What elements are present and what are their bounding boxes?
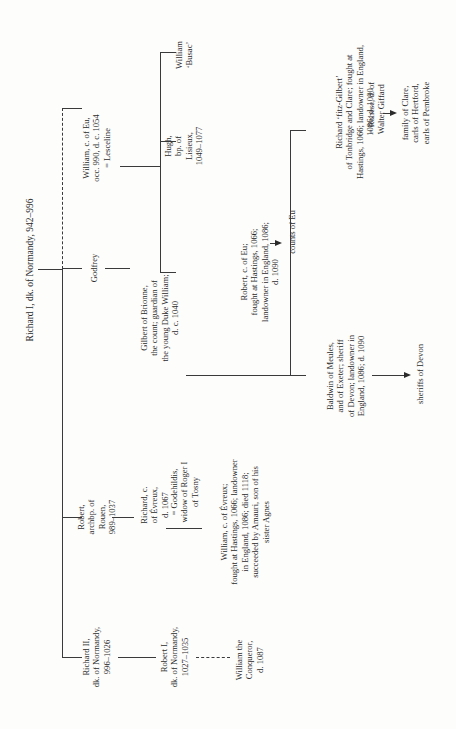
spine-gilbert [290,130,291,376]
edge-gilbert-children [186,375,290,376]
node-counts-eu: counts of Eu [287,210,297,253]
node-william-eu: William, c. of Eu, occ. 990, d. c. 1054 … [81,114,112,181]
edge-robert-i [118,657,156,658]
node-william-conqueror: William the Conqueror, d. 1087 [234,640,265,680]
arrow-devon-icon [404,372,411,378]
family-tree-diagram: Richard I, dk. of Normandy, 942–996 Rich… [0,0,456,729]
arrow-devon-shaft [372,375,408,376]
spine-eu [160,52,161,273]
edge-william-eu [62,108,82,109]
node-robert-eu: Robert, c. of Eu; fought at Hastings, 10… [239,222,281,322]
node-family-clare: family of Clare, carls of Hertford, earl… [400,82,431,145]
arrow-counts-eu-icon [275,240,282,246]
spine-dashed [62,108,63,269]
node-richard-i: Richard I, dk. of Normandy, 942–996 [25,199,35,342]
edge-baldwin [290,375,306,376]
node-robert-i: Robert I, dk. of Normandy, 1027–1035 [159,627,190,688]
node-william-evreux: William, c. of Évreux; fought at Hasting… [219,459,271,584]
spine-solid [62,269,63,658]
node-hugh: Hugh, bp. of Lisieux, 1049–1077 [163,127,205,166]
edge-gilbert [105,268,130,269]
node-william-busac: William ‘Busac’ [174,41,195,69]
edge-william-eu-children [120,166,160,167]
node-sheriffs-devon: sheriffs of Devon [415,344,425,404]
node-gilbert: Gilbert of Brionne, the count; guardian … [139,274,181,361]
node-richard-evreux: Richard, c. of Évreux, d. 1067 [139,486,170,523]
node-baldwin: Baldwin of Meules, and of Exeter; sherif… [325,335,367,417]
edge-root [38,269,62,270]
node-godehildis: = Godehildis, widow of Roger I of Tosny [169,462,200,523]
edge-william-conqueror [196,657,230,658]
edge-robert-eu [160,272,176,273]
node-richard-ii: Richard II, dk. of Normandy, 996–1026 [81,627,112,688]
edge-richard-fitz [290,130,306,131]
arrow-clare-icon [390,110,397,116]
edge-william-evreux [166,528,202,529]
node-richard-fitz-spouse: = Rohese, d. of Walter Giffard [366,82,387,134]
edge-godfrey [62,268,82,269]
node-godfrey: Godfrey [89,254,99,283]
edge-richard-ii [62,657,82,658]
edge-richard-evreux [112,517,134,518]
